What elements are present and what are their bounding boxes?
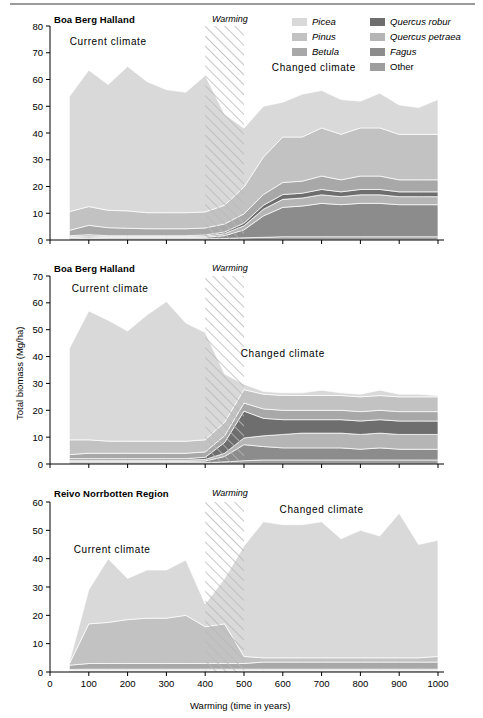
y-tick-label: 0 [38, 667, 43, 678]
panel-3-title: Reivo Norrbotten Region [54, 488, 169, 499]
panel-3-warming-label: Warming [212, 488, 248, 498]
y-tick-label: 10 [32, 432, 43, 443]
y-tick-label: 40 [32, 351, 43, 362]
y-tick-label: 50 [32, 101, 43, 112]
y-tick-label: 10 [32, 208, 43, 219]
x-tick-label: 100 [81, 678, 97, 689]
changed-climate-label: Changed climate [280, 504, 364, 515]
y-tick-label: 80 [32, 21, 43, 32]
warming-band [205, 502, 244, 672]
y-tick-label: 40 [32, 553, 43, 564]
x-tick-label: 1000 [427, 678, 448, 689]
x-tick-label: 800 [352, 678, 368, 689]
y-tick-label: 60 [32, 74, 43, 85]
x-tick-label: 400 [197, 678, 213, 689]
x-tick-label: 300 [158, 678, 174, 689]
y-tick-label: 10 [32, 638, 43, 649]
panel-2-plot: 010203040506070Current climateChanged cl… [0, 252, 483, 476]
y-tick-label: 50 [32, 525, 43, 536]
y-tick-label: 20 [32, 181, 43, 192]
y-tick-label: 30 [32, 154, 43, 165]
warming-band [205, 26, 244, 240]
warming-band [205, 276, 244, 464]
y-tick-label: 0 [38, 235, 43, 246]
y-tick-label: 20 [32, 610, 43, 621]
changed-climate-label: Changed climate [241, 348, 325, 359]
figure-root: Total biomass (Mg/ha) Warming (time in y… [0, 0, 483, 718]
current-climate-label: Current climate [74, 544, 151, 555]
y-tick-label: 40 [32, 128, 43, 139]
panel-1-warming-label: Warming [212, 14, 248, 24]
panel-3-plot: 0102030405060010020030040050060070080090… [0, 476, 483, 718]
y-tick-label: 30 [32, 582, 43, 593]
x-tick-label: 0 [47, 678, 52, 689]
x-tick-label: 700 [314, 678, 330, 689]
x-tick-label: 900 [391, 678, 407, 689]
x-tick-label: 500 [236, 678, 252, 689]
panel-1: Boa Berg Halland Warming 010203040506070… [0, 0, 483, 252]
panel-2-warming-label: Warming [212, 263, 248, 273]
y-tick-label: 70 [32, 271, 43, 282]
x-tick-label: 200 [120, 678, 136, 689]
y-tick-label: 60 [32, 497, 43, 508]
panel-2: Boa Berg Halland Warming 010203040506070… [0, 252, 483, 476]
changed-climate-label: Changed climate [272, 62, 356, 73]
panel-1-plot: 01020304050607080Current climateChanged … [0, 0, 483, 252]
current-climate-label: Current climate [70, 36, 147, 47]
y-tick-label: 50 [32, 324, 43, 335]
y-tick-label: 30 [32, 378, 43, 389]
panel-3: Reivo Norrbotten Region Warming 01020304… [0, 476, 483, 718]
y-tick-label: 70 [32, 47, 43, 58]
y-tick-label: 0 [38, 459, 43, 470]
panel-1-title: Boa Berg Halland [54, 14, 135, 25]
panel-2-title: Boa Berg Halland [54, 263, 135, 274]
y-tick-label: 60 [32, 297, 43, 308]
y-tick-label: 20 [32, 405, 43, 416]
current-climate-label: Current climate [72, 283, 149, 294]
x-tick-label: 600 [275, 678, 291, 689]
